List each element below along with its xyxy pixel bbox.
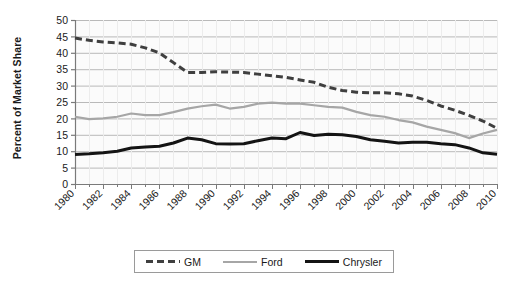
x-tick-label: 2006 [417,187,442,212]
x-tick-label: 1980 [51,187,76,212]
x-tick-label: 2004 [389,187,414,212]
x-tick-label: 2002 [361,187,386,212]
legend-item-ford: Ford [223,256,283,268]
y-tick-label: 35 [56,63,68,75]
x-tick-label: 1988 [164,187,189,212]
x-tick-label: 1990 [192,187,217,212]
legend-label-chrysler: Chrysler [343,256,382,268]
y-tick-label: 20 [56,113,68,125]
legend-label-ford: Ford [261,256,283,268]
x-tick-label: 2008 [445,187,470,212]
legend-item-gm: GM [146,256,201,268]
market-share-line-chart: Percent of Market Share 0510152025303540… [0,0,526,285]
y-tick-label: 40 [56,47,68,59]
x-tick-label: 1982 [80,187,105,212]
plot-area: 0510152025303540455019801982198419861988… [0,0,526,250]
x-tick-label: 1984 [108,187,133,212]
x-tick-label: 1992 [220,187,245,212]
x-tick-label: 2010 [473,187,498,212]
chart-legend: GM Ford Chrysler [134,250,394,273]
y-tick-label: 45 [56,31,68,43]
x-tick-label: 1986 [136,187,161,212]
legend-swatch-ford [223,261,257,263]
y-tick-label: 50 [56,14,68,26]
x-tick-label: 2000 [333,187,358,212]
x-tick-label: 1998 [305,187,330,212]
legend-label-gm: GM [184,256,201,268]
legend-swatch-chrysler [305,260,339,263]
y-tick-label: 15 [56,129,68,141]
x-tick-label: 1996 [276,187,301,212]
y-tick-label: 5 [62,162,68,174]
legend-item-chrysler: Chrysler [305,256,382,268]
y-tick-label: 25 [56,96,68,108]
x-tick-label: 1994 [248,187,273,212]
y-tick-label: 10 [56,145,68,157]
legend-swatch-gm [146,260,180,263]
y-tick-label: 30 [56,80,68,92]
